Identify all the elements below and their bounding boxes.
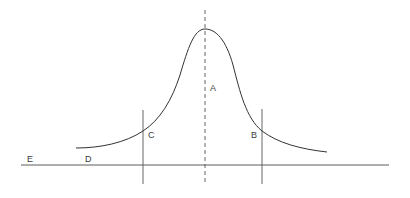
label-e: E — [27, 155, 33, 164]
label-c: C — [148, 131, 155, 140]
label-b: B — [251, 131, 257, 140]
bell-curve-diagram — [0, 0, 410, 198]
bell-curve — [76, 29, 327, 152]
label-d: D — [85, 155, 92, 164]
label-a: A — [210, 84, 216, 93]
